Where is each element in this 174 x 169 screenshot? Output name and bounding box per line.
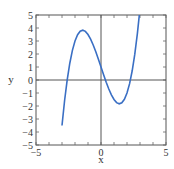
y-tick-label: 2 — [28, 49, 33, 60]
y-tick-label: −1 — [22, 88, 33, 99]
y-tick-label: 0 — [28, 75, 33, 86]
zero-reference-lines — [36, 15, 166, 145]
y-tick-label: −4 — [22, 127, 33, 138]
y-tick-label: 5 — [28, 10, 33, 21]
y-tick-label: 1 — [28, 62, 33, 73]
y-axis-label: y — [8, 73, 14, 85]
chart: −505 −5−4−3−2−1012345 x y — [0, 0, 174, 169]
x-tick-label: 5 — [164, 147, 169, 158]
y-tick-label: −5 — [22, 140, 33, 151]
y-tick-label: 3 — [28, 36, 33, 47]
y-tick-label: 4 — [28, 23, 33, 34]
y-tick-label: −3 — [22, 114, 33, 125]
y-tick-label: −2 — [22, 101, 33, 112]
x-axis-label: x — [98, 153, 104, 165]
y-axis-tick-labels: −5−4−3−2−1012345 — [22, 10, 33, 151]
